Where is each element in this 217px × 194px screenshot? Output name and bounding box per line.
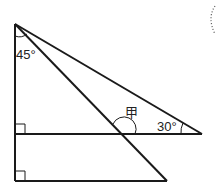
inner-diagonal xyxy=(15,24,167,181)
angle-arc-30 xyxy=(181,123,183,134)
label-45: 45° xyxy=(16,47,36,62)
dotted-arc xyxy=(211,6,215,34)
label-jia: 甲 xyxy=(125,105,138,120)
geometry-diagram: 45° 30° 甲 xyxy=(0,0,217,194)
right-angle-marker-middle xyxy=(15,124,25,134)
long-hypotenuse xyxy=(15,24,202,134)
label-30: 30° xyxy=(157,119,177,134)
right-angle-marker-bottom xyxy=(15,171,25,181)
